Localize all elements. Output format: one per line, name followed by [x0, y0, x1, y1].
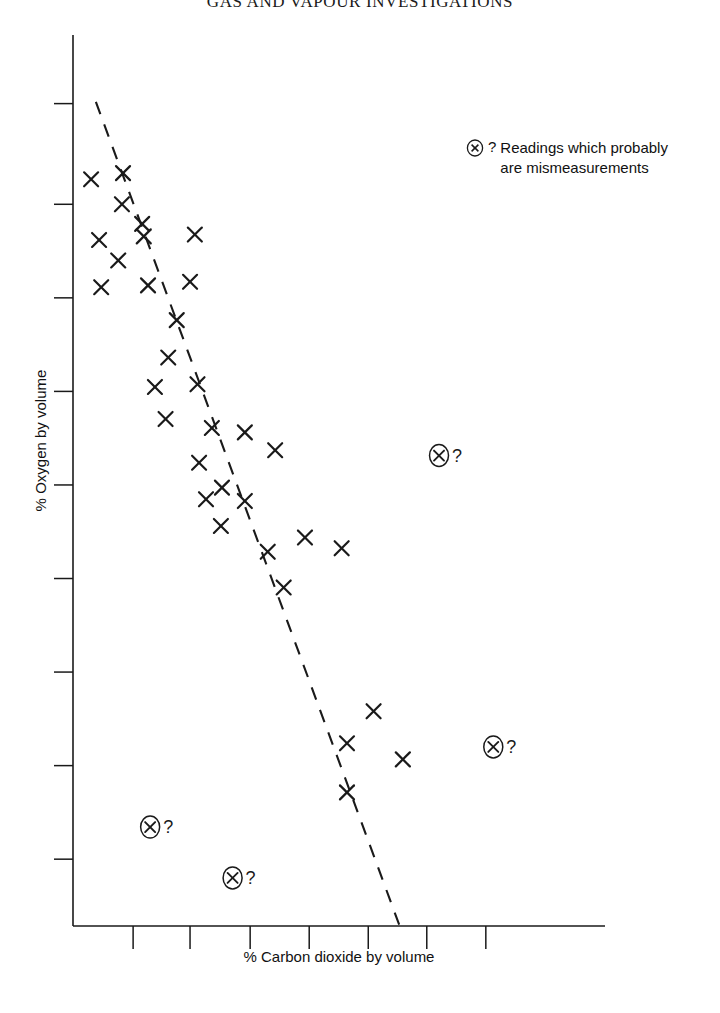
data-point	[199, 492, 213, 506]
x-axis-ticks	[133, 926, 486, 949]
data-point	[340, 785, 354, 799]
legend-label: Readings which probably are mismeasureme…	[500, 138, 668, 177]
outlier-question-mark: ?	[452, 446, 462, 466]
data-point	[183, 275, 197, 289]
y-axis-ticks	[54, 104, 73, 860]
outlier-question-mark: ?	[506, 737, 516, 757]
data-markers	[84, 166, 410, 799]
data-point	[335, 541, 349, 555]
data-point	[340, 736, 354, 750]
data-point	[92, 233, 106, 247]
outlier-question-mark: ?	[246, 868, 256, 888]
data-point	[298, 531, 312, 545]
data-point	[94, 280, 108, 294]
legend: ? Readings which probably are mismeasure…	[466, 138, 668, 177]
data-point	[215, 481, 229, 495]
data-point	[261, 545, 275, 559]
data-point	[161, 351, 175, 365]
data-point	[238, 494, 252, 508]
data-point	[192, 456, 206, 470]
data-point	[367, 704, 381, 718]
data-point	[148, 380, 162, 394]
data-point	[137, 229, 151, 243]
data-point	[396, 752, 410, 766]
outlier-point: ?	[141, 816, 174, 838]
outlier-point: ?	[223, 867, 256, 889]
circled-x-icon	[466, 139, 484, 162]
data-point	[115, 197, 129, 211]
data-point	[159, 412, 173, 426]
data-point	[84, 172, 98, 186]
data-point	[277, 580, 291, 594]
x-axis-label: % Carbon dioxide by volume	[73, 948, 605, 965]
outlier-point: ?	[430, 445, 463, 467]
outlier-point: ?	[484, 736, 517, 758]
y-axis-label: % Oxygen by volume	[32, 341, 49, 541]
data-point	[111, 253, 125, 267]
legend-question-mark: ?	[488, 137, 496, 157]
outlier-markers: ????	[141, 445, 517, 889]
outlier-question-mark: ?	[163, 817, 173, 837]
data-point	[268, 443, 282, 457]
data-point	[188, 228, 202, 242]
figure-page: GAS AND VAPOUR INVESTIGATIONS ???? % Oxy…	[0, 0, 720, 1013]
data-point	[141, 278, 155, 292]
data-point	[170, 313, 184, 327]
data-point	[214, 519, 228, 533]
data-point	[238, 425, 252, 439]
